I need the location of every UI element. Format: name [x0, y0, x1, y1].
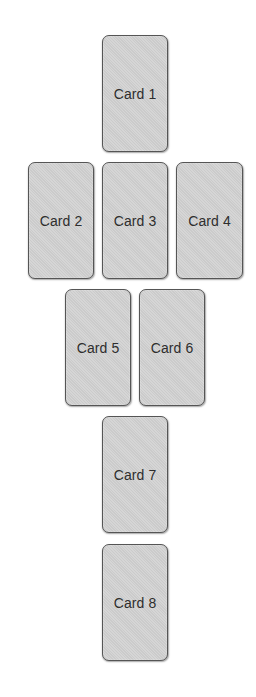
card-label: Card 1 — [114, 86, 157, 102]
card-3[interactable]: Card 3 — [102, 162, 168, 279]
card-7[interactable]: Card 7 — [102, 416, 168, 533]
card-label: Card 4 — [188, 213, 231, 229]
card-2[interactable]: Card 2 — [28, 162, 94, 279]
card-8[interactable]: Card 8 — [102, 544, 168, 661]
card-1[interactable]: Card 1 — [102, 35, 168, 152]
card-label: Card 5 — [77, 340, 120, 356]
card-label: Card 8 — [114, 595, 157, 611]
card-label: Card 7 — [114, 467, 157, 483]
card-6[interactable]: Card 6 — [139, 289, 205, 406]
card-4[interactable]: Card 4 — [176, 162, 243, 279]
card-label: Card 6 — [151, 340, 194, 356]
card-label: Card 3 — [114, 213, 157, 229]
card-5[interactable]: Card 5 — [65, 289, 131, 406]
card-label: Card 2 — [40, 213, 83, 229]
